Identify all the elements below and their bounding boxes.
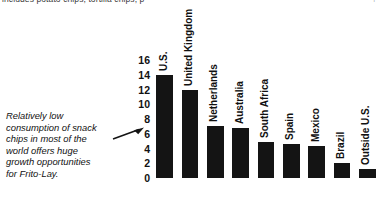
bar-category-label: Spain <box>285 113 295 140</box>
bar-group[interactable]: United Kingdom <box>182 14 199 197</box>
bar-group[interactable]: Outside U.S. <box>359 14 376 197</box>
bar-group[interactable]: Mexico <box>308 14 325 197</box>
caption-line: chips in most of the <box>6 133 124 145</box>
bar-group[interactable]: U.S. <box>156 14 173 197</box>
bar-category-label: United Kingdom <box>184 8 194 85</box>
bar-category-label: Netherlands <box>209 65 219 123</box>
caption-line: growth opportunities <box>6 156 124 168</box>
caption-line: for Frito-Lay. <box>6 168 124 180</box>
bar-category-label: Mexico <box>311 108 321 142</box>
bar[interactable] <box>207 126 224 178</box>
bar-chart: 1614121086420 U.S.United KingdomNetherla… <box>126 14 380 197</box>
bar-group[interactable]: Netherlands <box>207 14 224 197</box>
bar-category-label: Outside U.S. <box>361 106 371 165</box>
caption-line: world offers huge <box>6 145 124 157</box>
y-axis: 1614121086420 <box>126 14 150 197</box>
y-axis-tick-label: 10 <box>128 99 150 109</box>
y-axis-tick-label: 2 <box>128 158 150 168</box>
caption-line: consumption of snack <box>6 122 124 134</box>
bar[interactable] <box>334 163 351 178</box>
y-axis-tick-label: 0 <box>128 173 150 183</box>
bar[interactable] <box>258 142 275 178</box>
header-fragment-text: includes potato chips, tortilla chips, p <box>2 0 144 4</box>
bar-category-label: Australia <box>235 81 245 124</box>
y-axis-tick-label: 6 <box>128 129 150 139</box>
cut-off-header-fragment: includes potato chips, tortilla chips, p… <box>0 0 380 5</box>
y-axis-tick-label: 12 <box>128 85 150 95</box>
bar-category-label: Brazil <box>336 132 346 159</box>
bar-group[interactable]: Spain <box>283 14 300 197</box>
bar-group[interactable]: South Africa <box>258 14 275 197</box>
bar[interactable] <box>359 169 376 178</box>
y-axis-tick-label: 14 <box>128 70 150 80</box>
y-axis-tick-label: 16 <box>128 55 150 65</box>
bar-category-label: U.S. <box>159 51 169 70</box>
bar-group[interactable]: Australia <box>232 14 249 197</box>
y-axis-tick-label: 8 <box>128 114 150 124</box>
bar[interactable] <box>283 144 300 178</box>
plot-area: U.S.United KingdomNetherlandsAustraliaSo… <box>152 14 380 197</box>
header-fragment-marker: ↑ <box>372 0 376 4</box>
bar[interactable] <box>156 75 173 178</box>
bar-category-label: South Africa <box>260 79 270 138</box>
caption-line: Relatively low <box>6 110 124 122</box>
chart-caption: Relatively low consumption of snack chip… <box>6 110 124 180</box>
bar[interactable] <box>308 146 325 178</box>
bar[interactable] <box>232 128 249 178</box>
y-axis-tick-label: 4 <box>128 144 150 154</box>
bar[interactable] <box>182 90 199 179</box>
bar-group[interactable]: Brazil <box>334 14 351 197</box>
